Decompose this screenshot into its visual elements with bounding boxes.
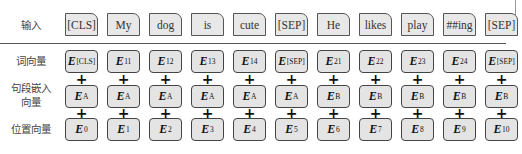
plus-icon: +	[65, 108, 98, 118]
input-row-label: 输入	[0, 18, 62, 32]
input-token: He	[317, 13, 350, 36]
input-token: My	[107, 13, 140, 36]
plus-row-1: + + + + + + + + + + +	[65, 74, 518, 84]
plus-icon: +	[485, 108, 518, 118]
plus-icon: +	[191, 108, 224, 118]
plus-icon: +	[233, 74, 266, 84]
plus-icon: +	[443, 74, 476, 84]
plus-icon: +	[401, 108, 434, 118]
position-embedding: E5	[275, 118, 308, 141]
position-embedding: E0	[65, 118, 98, 141]
position-embedding: E6	[317, 118, 350, 141]
plus-icon: +	[359, 108, 392, 118]
token-embedding: E23	[401, 50, 434, 73]
plus-icon: +	[401, 74, 434, 84]
plus-icon: +	[275, 74, 308, 84]
token-embedding: E11	[107, 50, 140, 73]
plus-icon: +	[233, 108, 266, 118]
input-token: play	[401, 13, 434, 36]
segment-embeddings-label: 句段嵌入 向量	[0, 81, 62, 109]
token-embedding: E[CLS]	[65, 50, 98, 73]
plus-icon: +	[191, 74, 224, 84]
plus-icon: +	[107, 74, 140, 84]
plus-icon: +	[359, 74, 392, 84]
plus-icon: +	[317, 108, 350, 118]
plus-icon: +	[275, 108, 308, 118]
token-embedding: E[SEP]	[275, 50, 308, 73]
input-token: [SEP]	[485, 13, 518, 36]
position-embeddings-row: E0 E1 E2 E3 E4 E5 E6 E7 E8 E9 E10	[65, 118, 518, 141]
position-embedding: E8	[401, 118, 434, 141]
token-embeddings-label: 词向量	[0, 54, 62, 68]
token-embedding: E12	[149, 50, 182, 73]
token-embedding: E22	[359, 50, 392, 73]
input-token: [CLS]	[65, 13, 98, 36]
plus-icon: +	[107, 108, 140, 118]
plus-icon: +	[149, 74, 182, 84]
plus-icon: +	[317, 74, 350, 84]
plus-icon: +	[65, 74, 98, 84]
input-token: cute	[233, 13, 266, 36]
input-token: dog	[149, 13, 182, 36]
input-token: [SEP]	[275, 13, 308, 36]
token-embedding: E21	[317, 50, 350, 73]
plus-icon: +	[443, 108, 476, 118]
position-embedding: E9	[443, 118, 476, 141]
token-embedding: E14	[233, 50, 266, 73]
input-token: likes	[359, 13, 392, 36]
position-embedding: E10	[485, 118, 518, 141]
plus-icon: +	[485, 74, 518, 84]
token-embedding: E[SEP]	[485, 50, 518, 73]
position-embedding: E1	[107, 118, 140, 141]
position-embedding: E3	[191, 118, 224, 141]
token-embeddings-row: E[CLS] E11 E12 E13 E14 E[SEP] E21 E22 E2…	[65, 50, 518, 73]
input-tokens-row: [CLS] My dog is cute [SEP] He likes play…	[65, 13, 518, 36]
position-embedding: E7	[359, 118, 392, 141]
position-embeddings-label: 位置向量	[0, 122, 62, 136]
plus-row-2: + + + + + + + + + + +	[65, 108, 518, 118]
token-embedding: E24	[443, 50, 476, 73]
divider-line	[0, 43, 506, 44]
token-embedding: E13	[191, 50, 224, 73]
input-token: is	[191, 13, 224, 36]
plus-icon: +	[149, 108, 182, 118]
position-embedding: E2	[149, 118, 182, 141]
input-token: ##ing	[443, 13, 476, 36]
position-embedding: E4	[233, 118, 266, 141]
